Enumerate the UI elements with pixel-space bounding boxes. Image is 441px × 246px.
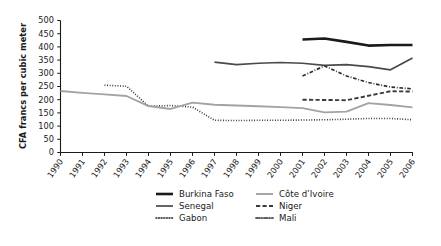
x-tick-label: 2000	[265, 157, 285, 180]
series-line-c-te-d-ivoire	[61, 91, 413, 112]
axis-lines	[61, 21, 413, 153]
legend-label-senegal: Senegal	[179, 201, 214, 211]
x-tick-label: 1994	[133, 157, 153, 180]
legend-label-niger: Niger	[279, 201, 303, 211]
y-tick-label: 400	[38, 42, 54, 52]
series-line-niger	[303, 91, 413, 100]
y-tick-label: 450	[38, 29, 54, 39]
y-axis-ticks-group: 050100150200250300350400450500	[38, 15, 60, 157]
series-line-mali	[303, 66, 413, 89]
x-tick-label: 1995	[155, 157, 175, 180]
y-tick-label: 50	[44, 134, 54, 144]
axis-lines-group	[61, 21, 413, 156]
y-axis-label-group: CFA francs per cubic meter	[18, 22, 28, 149]
x-tick-label: 1997	[199, 157, 219, 180]
x-tick-label: 1996	[177, 157, 197, 180]
series-line-gabon	[105, 85, 413, 120]
series-line-burkina-faso	[303, 38, 413, 45]
legend-label-burkina-faso: Burkina Faso	[179, 189, 234, 199]
y-tick-label: 0	[49, 147, 54, 157]
legend-label-mali: Mali	[279, 213, 296, 223]
x-tick-label: 1999	[243, 157, 263, 180]
y-tick-label: 300	[38, 68, 54, 78]
y-tick-label: 100	[38, 121, 54, 131]
x-tick-label: 1993	[111, 157, 131, 180]
x-tick-label: 2004	[353, 157, 373, 180]
chart-figure: CFA francs per cubic meter 0501001502002…	[0, 0, 441, 246]
x-tick-label: 1991	[67, 157, 87, 180]
y-tick-label: 350	[38, 55, 54, 65]
x-tick-label: 2005	[375, 157, 395, 180]
legend-label-c-te-d-ivoire: Côte d’Ivoire	[279, 189, 334, 199]
x-tick-label: 2001	[287, 157, 307, 180]
y-tick-label: 150	[38, 108, 54, 118]
series-line-senegal	[215, 58, 413, 70]
y-tick-label: 200	[38, 95, 54, 105]
x-tick-label: 2006	[397, 157, 417, 180]
x-tick-label: 1992	[89, 157, 109, 180]
line-chart-canvas: CFA francs per cubic meter 0501001502002…	[0, 0, 441, 246]
x-axis-ticks-group: 1990199119921993199419951996199719981999…	[45, 153, 417, 180]
legend-label-gabon: Gabon	[179, 213, 207, 223]
y-axis-title: CFA francs per cubic meter	[18, 22, 28, 149]
x-tick-label: 2002	[309, 157, 329, 180]
x-tick-label: 2003	[331, 157, 351, 180]
y-tick-label: 500	[38, 15, 54, 25]
legend-group: Burkina FasoCôte d’IvoireSenegalNigerGab…	[156, 189, 334, 223]
x-tick-label: 1998	[221, 157, 241, 180]
x-tick-label: 1990	[45, 157, 65, 180]
data-series-group	[61, 38, 413, 120]
y-tick-label: 250	[38, 81, 54, 91]
